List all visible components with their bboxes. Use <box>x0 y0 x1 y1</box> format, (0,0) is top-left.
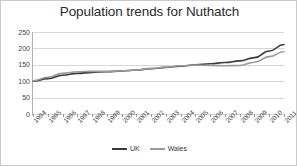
series-lines <box>33 32 284 114</box>
y-tick-label: 100 <box>4 78 30 85</box>
y-tick-label: 150 <box>4 61 30 68</box>
chart-container: Population trends for Nuthatch 050100150… <box>0 0 297 166</box>
legend-line-icon <box>112 148 127 150</box>
series-line-uk <box>33 44 284 81</box>
y-tick-label: 50 <box>4 94 30 101</box>
y-tick-label: 0 <box>4 111 30 118</box>
legend-label: Wales <box>168 145 187 153</box>
series-line-wales <box>33 52 284 81</box>
y-tick-label: 250 <box>4 29 30 36</box>
legend-item-uk[interactable]: UK <box>112 145 140 153</box>
y-tick-label: 200 <box>4 45 30 52</box>
legend-line-icon <box>150 148 165 150</box>
y-axis-tick-labels: 050100150200250 <box>1 1 30 166</box>
x-tick-label: 2011 <box>283 109 297 124</box>
legend-label: UK <box>130 145 140 153</box>
legend-item-wales[interactable]: Wales <box>150 145 187 153</box>
chart-title: Population trends for Nuthatch <box>1 4 297 19</box>
chart-legend: UKWales <box>1 145 297 153</box>
plot-area <box>33 32 284 114</box>
